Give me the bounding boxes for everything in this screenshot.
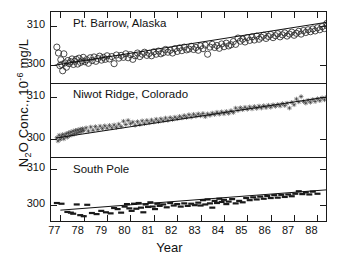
x-tick-top-80: [130, 12, 131, 18]
x-tick-bottom-82: [177, 215, 178, 221]
trend-line-panel-0: [55, 22, 326, 65]
y-tick-label-310-panel-1: 310: [11, 89, 45, 101]
x-tick-top-86: [271, 12, 272, 18]
x-tick-label-80: 80: [111, 224, 137, 236]
x-tick-label-82: 82: [158, 224, 184, 236]
x-tick-label-87: 87: [275, 224, 301, 236]
x-tick-top-81: [154, 12, 155, 18]
x-tick-bottom-88: [317, 215, 318, 221]
panel-pt-barrow: Pt. Barrow, Alaska: [51, 12, 326, 83]
x-tick-label-81: 81: [135, 224, 161, 236]
y-tick-label-300-panel-1: 300: [11, 131, 45, 143]
x-tick-bottom-79: [107, 215, 108, 221]
y-axis-title-subscript: 2: [23, 152, 33, 157]
x-tick-top-82: [177, 12, 178, 18]
x-tick-label-86: 86: [252, 224, 278, 236]
x-tick-bottom-87: [294, 215, 295, 221]
plot-frame: Pt. Barrow, Alaska Niwot Ridge, Colorado…: [50, 11, 327, 222]
panel-niwot-ridge: Niwot Ridge, Colorado: [51, 83, 326, 157]
x-tick-label-78: 78: [65, 224, 91, 236]
x-tick-top-87: [294, 12, 295, 18]
x-tick-bottom-84: [224, 215, 225, 221]
panel-divider-1: [51, 83, 326, 84]
x-tick-label-85: 85: [228, 224, 254, 236]
x-tick-bottom-78: [84, 215, 85, 221]
x-tick-label-84: 84: [205, 224, 231, 236]
x-tick-label-88: 88: [298, 224, 324, 236]
y-tick-label-310-panel-2: 310: [11, 161, 45, 173]
x-tick-bottom-77: [60, 215, 61, 221]
x-axis-title: Year: [0, 240, 339, 255]
data-points-dash: [54, 190, 321, 217]
series-layer-panel-1: [51, 83, 326, 157]
x-tick-label-83: 83: [182, 224, 208, 236]
y-axis-title-superscript: -6: [15, 72, 25, 80]
y-tick-label-300-panel-0: 300: [11, 57, 45, 69]
x-tick-top-85: [247, 12, 248, 18]
panel-south-pole: South Pole: [51, 157, 326, 223]
panel-divider-2: [51, 157, 326, 158]
series-layer-panel-0: [51, 12, 326, 83]
x-tick-bottom-85: [247, 215, 248, 221]
trend-line-panel-2: [60, 190, 326, 210]
x-tick-top-78: [84, 12, 85, 18]
x-tick-top-88: [317, 12, 318, 18]
x-tick-label-79: 79: [88, 224, 114, 236]
trend-line-panel-1: [56, 97, 326, 138]
x-tick-bottom-80: [130, 215, 131, 221]
series-layer-panel-2: [51, 157, 326, 223]
y-tick-label-300-panel-2: 300: [11, 197, 45, 209]
y-tick-label-310-panel-0: 310: [11, 18, 45, 30]
x-tick-top-77: [60, 12, 61, 18]
x-tick-top-83: [201, 12, 202, 18]
figure: N2O Conc., 10-6 mg/L Pt. Barrow, Alaska …: [0, 0, 339, 264]
x-tick-label-77: 77: [41, 224, 67, 236]
x-tick-top-84: [224, 12, 225, 18]
data-points-asterisk: [55, 94, 326, 143]
x-tick-bottom-83: [201, 215, 202, 221]
x-tick-top-79: [107, 12, 108, 18]
x-tick-bottom-86: [271, 215, 272, 221]
x-tick-bottom-81: [154, 215, 155, 221]
